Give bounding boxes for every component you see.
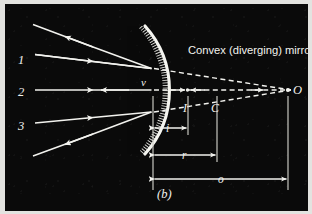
ray-3-label: 3 [17, 119, 24, 133]
ray-2-label: 2 [18, 85, 24, 99]
figure-caption: (b) [157, 187, 172, 201]
ray-1-label: 1 [18, 53, 24, 67]
vertex-label: v [141, 76, 146, 88]
mirror-type-label: Convex (diverging) mirror [188, 44, 308, 56]
dimension-label-i: i [166, 122, 169, 134]
figure-root: Convex (diverging) mirror 1 2 3 v I C O … [0, 0, 312, 214]
virtual-ray-1 [154, 69, 291, 91]
ray-1-reflected-arrow [65, 37, 93, 48]
center-point-label: C [211, 101, 220, 115]
object-point-label: O [293, 83, 302, 97]
image-point-label: I [182, 101, 188, 115]
ray-group [33, 25, 152, 157]
diagram-panel: Convex (diverging) mirror 1 2 3 v I C O … [5, 4, 308, 211]
ray-3-reflected-arrow [65, 134, 93, 145]
dimension-label-r: r [182, 149, 187, 161]
image-point-dot [186, 88, 189, 91]
virtual-ray-3 [154, 90, 291, 112]
dimension-label-o: o [218, 173, 224, 185]
dimension-arrow-group [155, 128, 287, 179]
ray-3-incident [35, 112, 152, 123]
object-point-dot [286, 88, 290, 92]
ray-diagram: Convex (diverging) mirror 1 2 3 v I C O … [5, 4, 308, 211]
